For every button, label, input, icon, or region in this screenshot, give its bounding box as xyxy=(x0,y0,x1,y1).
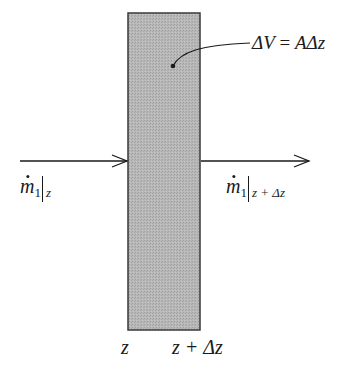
outflow-mass-rate-symbol: m xyxy=(226,176,240,196)
outflow-arrow xyxy=(201,155,309,167)
outflow-species-subscript: 1 xyxy=(240,185,247,200)
evaluation-bar xyxy=(248,176,249,202)
volume-lhs: ΔV xyxy=(252,32,275,53)
evaluation-bar xyxy=(42,176,43,202)
volume-rhs: AΔz xyxy=(295,32,325,53)
outflow-evaluated-at: z + Δz xyxy=(252,185,285,200)
inflow-species-subscript: 1 xyxy=(34,185,41,200)
inflow-mass-rate-symbol: m xyxy=(20,176,34,196)
outflow-label: m1z + Δz xyxy=(226,176,285,202)
left-face-position-label: z xyxy=(121,337,129,357)
inflow-arrow xyxy=(20,155,127,167)
inflow-evaluated-at: z xyxy=(46,185,51,200)
control-volume-slab xyxy=(128,13,200,330)
diagram-canvas xyxy=(0,0,362,370)
right-face-position-label: z + Δz xyxy=(172,337,223,357)
inflow-label: m1z xyxy=(20,176,51,202)
volume-point-dot xyxy=(171,64,176,69)
volume-equation-label: ΔV = AΔz xyxy=(252,33,325,52)
volume-eq: = xyxy=(280,32,291,53)
